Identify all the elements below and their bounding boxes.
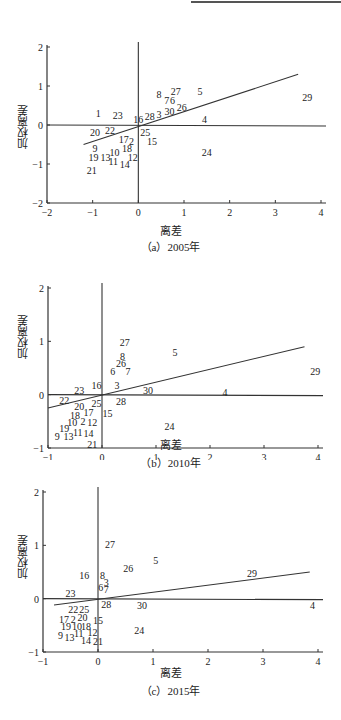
data-point-label: 5 [172,347,177,358]
data-point-label: 27 [120,337,130,348]
svg-text:0: 0 [34,594,39,605]
data-point-label: 26 [177,102,187,113]
svg-text:2: 2 [227,207,232,218]
data-point-label: 23 [66,588,76,599]
data-point-label: 28 [116,396,126,407]
x-axis-label: 离差 [0,222,341,238]
data-point-label: 16 [133,114,143,125]
data-point-label: 26 [116,358,126,369]
data-point-label: 28 [101,599,111,610]
data-point-label: 7 [104,584,109,595]
svg-text:0: 0 [136,207,141,218]
data-point-label: 22 [59,395,69,406]
chart-2010: −1012−1012342345678910111213141516171819… [0,255,341,460]
svg-text:2: 2 [34,487,39,498]
data-point-label: 24 [134,625,144,636]
data-point-label: 19 [61,621,71,632]
data-point-label: 23 [113,110,123,121]
data-point-label: 13 [64,632,74,643]
data-point-label: 22 [68,604,78,615]
scatter-plot-2010: −1012−1012342345678910111213141516171819… [0,255,341,460]
data-point-label: 22 [105,125,115,136]
svg-text:1: 1 [39,336,44,347]
data-point-label: 20 [90,127,100,138]
data-point-label: 27 [105,539,115,550]
data-point-label: 14 [120,159,130,170]
svg-text:−1: −1 [87,207,98,218]
data-point-label: 6 [98,582,103,593]
data-point-label: 29 [310,366,320,377]
data-point-label: 19 [89,152,99,163]
scatter-plot-2015: −1012−1012342345678910111213141516171819… [0,470,341,670]
data-point-label: 3 [115,380,120,391]
data-point-label: 8 [100,570,105,581]
svg-text:3: 3 [273,207,278,218]
svg-text:0: 0 [39,390,44,401]
svg-text:2: 2 [38,42,43,53]
data-point-label: 21 [93,636,103,647]
data-point-label: 7 [164,95,169,106]
caption-2005: （a）2005年 [0,238,341,254]
data-point-label: 1 [96,108,101,119]
x-axis-label: 离差 [0,664,341,680]
data-point-label: 12 [87,417,97,428]
caption-2010: （b）2010年 [0,454,341,470]
data-point-label: 5 [153,555,158,566]
y-axis-label: 加权离差 [15,535,31,579]
data-point-label: 30 [164,106,174,117]
svg-text:1: 1 [38,81,43,92]
data-point-label: 5 [197,86,202,97]
data-point-label: 28 [145,111,155,122]
data-point-label: 23 [74,385,84,396]
y-axis-label: 加权离差 [15,105,31,149]
data-point-label: 18 [122,143,132,154]
caption-2015: （c）2015年 [0,682,341,698]
svg-text:1: 1 [34,540,39,551]
x-axis-label: 离差 [0,436,341,452]
data-point-label: 16 [92,380,102,391]
data-point-label: 16 [79,570,89,581]
data-point-label: 25 [92,398,102,409]
data-point-label: 30 [143,385,153,396]
svg-text:0: 0 [38,120,43,131]
data-point-label: 20 [74,401,84,412]
data-point-label: 14 [81,635,91,646]
data-point-label: 3 [156,109,161,120]
data-point-label: 24 [202,147,212,158]
svg-text:4: 4 [319,207,324,218]
data-point-label: 4 [310,600,315,611]
y-axis-label: 加权离差 [15,315,31,359]
data-point-label: 7 [125,366,130,377]
scatter-plot-2005: −2−1012−2−101234123456789101112131415161… [0,0,341,240]
data-point-label: 21 [87,165,97,176]
svg-text:−1: −1 [32,159,43,170]
data-point-label: 13 [100,152,110,163]
svg-text:2: 2 [39,283,44,294]
data-point-label: 30 [137,600,147,611]
chart-2015: −1012−1012342345678910111213141516171819… [0,470,341,670]
data-point-label: 15 [93,615,103,626]
data-point-label: 19 [59,423,69,434]
data-point-label: 29 [247,568,257,579]
data-point-label: 4 [202,114,207,125]
data-point-label: 17 [84,407,94,418]
data-point-label: 26 [123,563,133,574]
data-point-label: 29 [302,92,312,103]
svg-text:−2: −2 [42,207,53,218]
data-point-label: 25 [140,127,150,138]
svg-text:1: 1 [182,207,187,218]
data-point-label: 27 [171,86,181,97]
data-point-label: 6 [110,366,115,377]
data-point-label: 24 [165,421,175,432]
chart-2005: −2−1012−2−101234123456789101112131415161… [0,0,341,240]
data-point-label: 4 [223,387,228,398]
data-point-label: 15 [102,408,112,419]
data-point-label: 25 [79,604,89,615]
data-point-label: 8 [156,89,161,100]
